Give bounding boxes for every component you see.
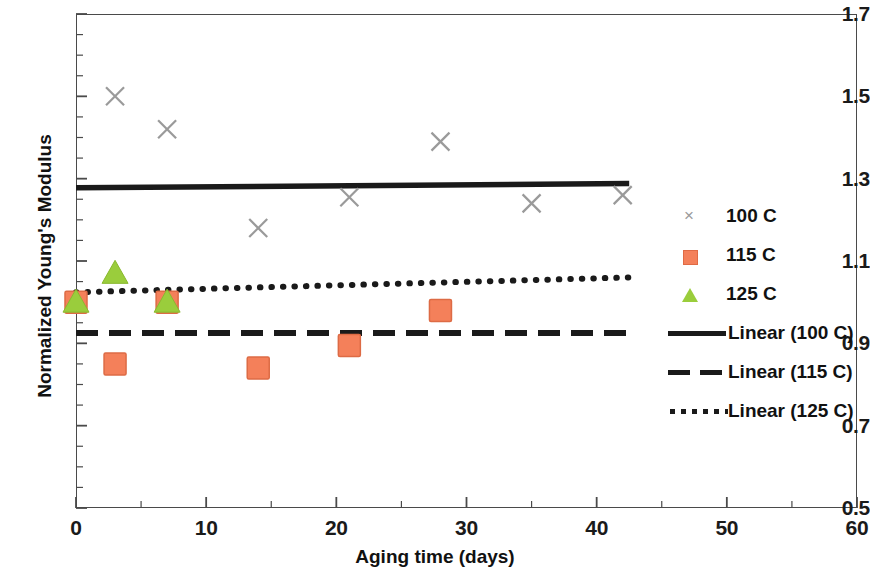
legend-item-label: Linear (125 C) <box>728 400 854 422</box>
legend-item-label: Linear (100 C) <box>728 322 854 344</box>
dashed-line-glyph <box>668 370 726 375</box>
legend-item[interactable]: 115 C <box>668 235 868 274</box>
data-point <box>523 194 541 212</box>
data-point <box>338 334 360 356</box>
y-axis-title: Normalized Young's Modulus <box>34 51 56 481</box>
x-tick-label: 20 <box>325 516 348 540</box>
solid-line-glyph <box>668 331 726 336</box>
data-point <box>104 353 126 375</box>
data-point <box>102 260 128 283</box>
triangle-marker-icon <box>668 280 726 308</box>
data-point <box>106 87 124 105</box>
dotted-line-glyph <box>670 409 728 414</box>
x-tick-label: 0 <box>70 516 81 540</box>
x-axis-title: Aging time (days) <box>0 546 870 568</box>
legend-item[interactable]: Linear (125 C) <box>668 391 868 430</box>
y-tick-label: 1.7 <box>806 2 870 26</box>
data-point <box>247 357 269 379</box>
triangle-marker-glyph <box>682 288 698 302</box>
data-point <box>429 299 451 321</box>
square-marker-glyph <box>683 250 698 265</box>
data-point <box>158 120 176 138</box>
y-tick-label: 1.5 <box>806 84 870 108</box>
y-tick-label: 1.3 <box>806 167 870 191</box>
x-tick-label: 40 <box>585 516 608 540</box>
dashed-line-icon <box>668 358 728 386</box>
square-marker-icon <box>668 241 726 269</box>
dotted-line-icon <box>668 397 728 425</box>
x-marker-icon: × <box>668 202 726 230</box>
x-tick-label: 50 <box>715 516 738 540</box>
data-point <box>614 186 632 204</box>
legend-item[interactable]: Linear (115 C) <box>668 352 868 391</box>
x-marker-glyph: × <box>681 208 697 224</box>
legend-item[interactable]: ×100 C <box>668 196 868 235</box>
trendline-linear-125-c <box>76 277 629 292</box>
legend-item-label: 125 C <box>726 283 777 305</box>
data-point <box>340 188 358 206</box>
x-tick-label: 30 <box>455 516 478 540</box>
x-tick-label: 60 <box>846 516 869 540</box>
chart-legend: ×100 C115 C125 CLinear (100 C)Linear (11… <box>668 196 868 430</box>
legend-item[interactable]: Linear (100 C) <box>668 313 868 352</box>
chart-page: 0.50.70.91.11.31.51.7 0102030405060 Norm… <box>0 0 870 573</box>
data-point <box>431 133 449 151</box>
solid-line-icon <box>668 319 728 347</box>
legend-item-label: 115 C <box>726 244 776 266</box>
legend-item-label: Linear (115 C) <box>728 361 853 383</box>
legend-item[interactable]: 125 C <box>668 274 868 313</box>
legend-item-label: 100 C <box>726 205 777 227</box>
data-point <box>249 219 267 237</box>
trendline-linear-100-c <box>76 184 629 188</box>
x-tick-label: 10 <box>195 516 218 540</box>
